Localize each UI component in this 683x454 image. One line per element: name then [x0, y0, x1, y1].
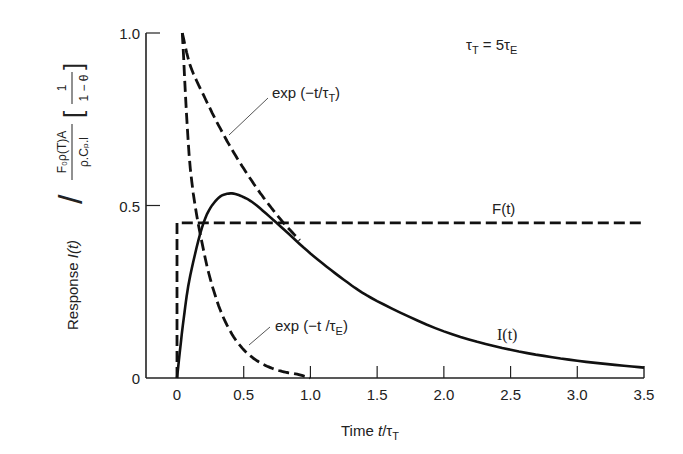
label-I: I(t) — [497, 326, 517, 344]
x-title-sub: T — [392, 430, 399, 442]
y-title-slash: / — [51, 194, 89, 204]
x-tick-label: 2.5 — [500, 386, 521, 403]
y-axis-title: Response I(t) / F₀ρ(T)A ρ.Cₚ.l [ 1 1 − θ… — [51, 63, 91, 330]
series-group — [177, 33, 644, 378]
x-tick-label: 3.5 — [634, 386, 655, 403]
x-tick-label: 3.0 — [567, 386, 588, 403]
label-F: F(t) — [492, 200, 515, 217]
x-tick-label: 0 — [173, 386, 181, 403]
y-title-prefix: Response — [64, 258, 81, 330]
label-exp-tE-sub: E — [336, 325, 343, 337]
x-title-prefix: Time — [341, 422, 378, 439]
x-title-sep: /τ — [382, 422, 392, 439]
tau-eq: = 5τ — [479, 36, 510, 53]
series-f-t — [177, 223, 644, 378]
label-exp-tE-close: ) — [343, 317, 348, 334]
y-frac-denominator: ρ.Cₚ.l — [77, 137, 91, 167]
y-bracket-left: [ — [58, 110, 88, 118]
x-tick-label: 1.0 — [300, 386, 321, 403]
y-tick-label: 1.0 — [119, 25, 140, 42]
series-i-t — [177, 193, 644, 378]
leader-line-exp-tT — [229, 98, 268, 135]
y-bracket-right: ] — [58, 63, 88, 70]
tau-sub-e: E — [510, 44, 517, 56]
axes: 00.51.01.52.02.53.03.500.51.0 — [119, 25, 654, 403]
svg-text:Response I(t): Response I(t) — [64, 240, 81, 330]
chart: 00.51.01.52.02.53.03.500.51.0 Response I… — [0, 0, 683, 454]
label-exp-tT-close: ) — [335, 84, 340, 101]
y-tick-label: 0.5 — [119, 198, 140, 215]
x-tick-label: 0.5 — [233, 386, 254, 403]
label-exp-tE: exp (−t /τE) — [275, 317, 348, 337]
label-exp-tT-main: exp (−t/τ — [272, 84, 328, 101]
y-frac-numerator: F₀ρ(T)A — [55, 131, 69, 173]
y-bracket-denominator: 1 − θ — [77, 74, 91, 101]
leader-line-exp-tE — [249, 327, 270, 345]
label-exp-tT: exp (−t/τT) — [272, 84, 340, 104]
x-tick-label: 2.0 — [433, 386, 454, 403]
label-exp-tE-main: exp (−t /τ — [275, 317, 336, 334]
y-bracket-numerator: 1 — [55, 84, 69, 91]
x-tick-label: 1.5 — [367, 386, 388, 403]
x-axis-title: Time t/τT — [341, 422, 399, 442]
y-title-var: I(t) — [64, 240, 81, 258]
tau-ratio-annotation: τT = 5τE — [466, 36, 517, 56]
series-exp-t-t — [182, 33, 299, 240]
y-tick-label: 0 — [132, 370, 140, 387]
